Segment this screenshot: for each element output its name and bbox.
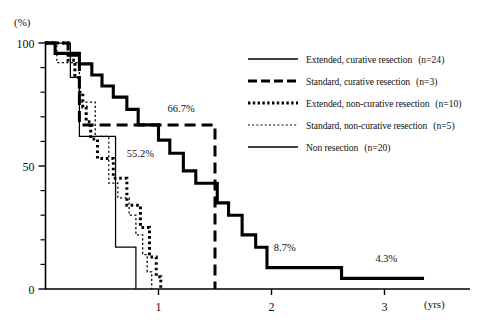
legend-line-swatch-thin-solid xyxy=(247,141,299,153)
legend-item[interactable]: Standard, non-curative resection(n=5) xyxy=(247,114,479,136)
curve-annotation: 66.7% xyxy=(168,103,195,114)
legend-item-count: (n=24) xyxy=(418,54,444,65)
legend-item-count: (n=5) xyxy=(433,120,454,131)
x-axis-tick-label: 1 xyxy=(156,300,162,314)
legend-line-swatch-thin-dotted xyxy=(247,119,299,131)
y-axis-tick-label: 0 xyxy=(29,283,35,297)
legend-item[interactable]: Non resection(n=20) xyxy=(247,136,479,158)
y-axis-unit-label: (%) xyxy=(14,16,31,29)
legend-text-wrap: Extended, curative resection(n=24) xyxy=(306,54,444,65)
legend-item[interactable]: Standard, curative resection(n=3) xyxy=(247,70,479,92)
x-axis-tick-label: 3 xyxy=(382,300,388,314)
x-axis-tick-labels: 123 xyxy=(156,300,388,314)
curve-annotation: 8.7% xyxy=(274,242,296,253)
x-axis-tick-label: 2 xyxy=(269,300,275,314)
curve-annotation: 55.2% xyxy=(127,148,154,159)
legend-item-count: (n=20) xyxy=(364,142,390,153)
y-axis-ticks xyxy=(39,43,46,289)
y-axis-tick-labels: 100500 xyxy=(17,37,35,297)
y-axis-tick-label: 100 xyxy=(17,37,35,51)
survival-curve-thick-dashed xyxy=(46,43,216,289)
legend-item-label: Extended, curative resection xyxy=(306,54,412,65)
legend-item[interactable]: Extended, curative resection(n=24) xyxy=(247,48,479,70)
legend-line-swatch-thick-dashed xyxy=(247,75,299,87)
x-axis-unit-label: (yrs) xyxy=(424,298,445,311)
legend-item-label: Extended, non-curative resection xyxy=(306,98,429,109)
legend-item[interactable]: Extended, non-curative resection(n=10) xyxy=(247,92,479,114)
legend-item-label: Standard, curative resection xyxy=(306,76,410,87)
chart-root: 100500 123 (%) (yrs) 66.7%55.2%8.7%4.3% … xyxy=(0,0,481,331)
legend-item-label: Non resection xyxy=(306,142,358,153)
legend-text-wrap: Non resection(n=20) xyxy=(306,142,390,153)
survival-curve-thin-solid xyxy=(46,43,136,289)
legend-text-wrap: Extended, non-curative resection(n=10) xyxy=(306,98,462,109)
legend-item-count: (n=10) xyxy=(435,98,461,109)
x-axis-ticks xyxy=(159,289,385,295)
chart-legend: Extended, curative resection(n=24)Standa… xyxy=(247,48,479,158)
curve-annotation: 4.3% xyxy=(375,253,397,264)
y-axis-tick-label: 50 xyxy=(23,160,35,174)
legend-line-swatch-thick-solid xyxy=(247,53,299,65)
legend-item-count: (n=3) xyxy=(416,76,437,87)
legend-text-wrap: Standard, curative resection(n=3) xyxy=(306,76,437,87)
legend-text-wrap: Standard, non-curative resection(n=5) xyxy=(306,120,455,131)
legend-item-label: Standard, non-curative resection xyxy=(306,120,427,131)
legend-line-swatch-thick-dotted xyxy=(247,97,299,109)
